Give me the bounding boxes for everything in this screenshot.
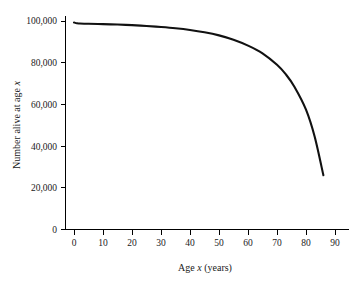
x-tick-label: 60 [243,238,253,248]
y-axis-title: Number alive at age x [11,81,22,169]
y-tick-label: 100,000 [26,16,57,26]
x-tick-label: 70 [272,238,282,248]
x-tick-label: 10 [98,238,108,248]
x-axis-title-post: (years) [202,262,232,274]
y-axis-title-variable: x [11,81,22,87]
x-axis-title-pre: Age [178,262,197,273]
survival-curve-figure: 100,000 80,000 60,000 40,000 20,000 0 0 … [0,0,361,284]
x-tick-label: 0 [72,238,77,248]
y-tick-label: 60,000 [31,100,57,110]
x-axis-title: Age x (years) [178,262,232,274]
chart-svg: 100,000 80,000 60,000 40,000 20,000 0 0 … [0,0,361,284]
x-tick-label: 90 [330,238,340,248]
x-tick-label: 20 [127,238,137,248]
y-tick-label: 40,000 [31,142,57,152]
x-tick-label: 40 [185,238,195,248]
x-tick-label: 30 [156,238,166,248]
y-tick-label: 80,000 [31,58,57,68]
x-tick-label: 80 [301,238,311,248]
y-tick-label: 0 [52,225,57,235]
x-tick-label: 50 [214,238,224,248]
y-tick-label: 20,000 [31,183,57,193]
y-axis-title-pre: Number alive at age [11,86,22,169]
